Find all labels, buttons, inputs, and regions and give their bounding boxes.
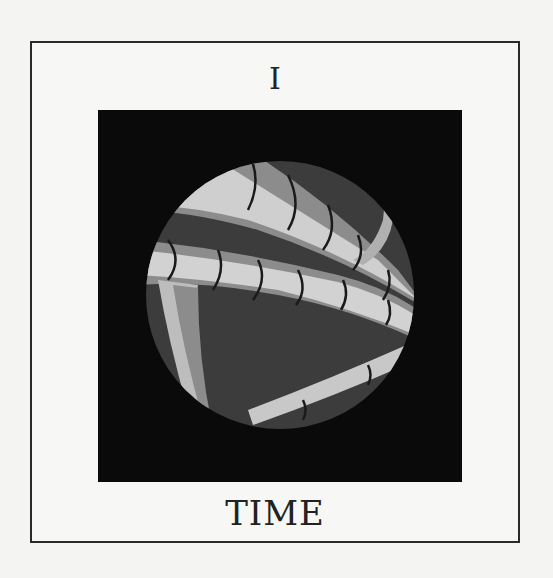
card-title: TIME [32,493,518,533]
card: I [30,41,520,543]
card-artwork-frame [98,110,462,482]
card-illustration [98,110,462,482]
card-numeral: I [32,61,518,96]
